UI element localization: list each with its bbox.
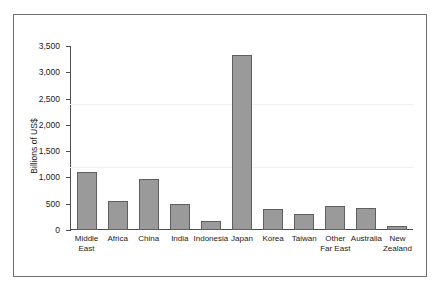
bar[interactable] xyxy=(387,226,407,230)
bar[interactable] xyxy=(294,214,314,230)
bar[interactable] xyxy=(77,172,97,230)
x-axis-category-labels: Middle EastAfricaChinaIndiaIndonesiaJapa… xyxy=(71,234,413,268)
chart-figure-frame: Billions of US$ 05001,0001,5002,0002,500… xyxy=(13,14,427,277)
y-tick-label: 3,500 xyxy=(39,42,60,51)
y-tick: 3,500 xyxy=(66,46,70,47)
bar-series xyxy=(71,46,413,230)
y-tick: 2,000 xyxy=(66,125,70,126)
bar[interactable] xyxy=(139,179,159,230)
bar-slot xyxy=(102,46,133,230)
y-tick: 3,000 xyxy=(66,72,70,73)
y-tick-label: 2,000 xyxy=(39,121,60,130)
y-tick: 0 xyxy=(66,230,70,231)
y-axis-title: Billions of US$ xyxy=(30,118,39,173)
y-tick-label: 1,000 xyxy=(39,173,60,182)
bar[interactable] xyxy=(325,206,345,230)
bar-slot xyxy=(382,46,413,230)
bar-slot xyxy=(226,46,257,230)
y-tick-label: 0 xyxy=(55,226,60,235)
bar[interactable] xyxy=(356,208,376,230)
bar-slot xyxy=(164,46,195,230)
bar[interactable] xyxy=(201,221,221,230)
y-tick: 1,000 xyxy=(66,177,70,178)
y-tick-label: 3,000 xyxy=(39,68,60,77)
y-tick: 2,500 xyxy=(66,99,70,100)
bar-slot xyxy=(351,46,382,230)
y-tick-label: 1,500 xyxy=(39,147,60,156)
x-category-label: New Zealand xyxy=(374,234,420,254)
bar-slot xyxy=(320,46,351,230)
y-tick-label: 500 xyxy=(46,199,60,208)
bar-slot xyxy=(258,46,289,230)
y-tick: 1,500 xyxy=(66,151,70,152)
bar[interactable] xyxy=(108,201,128,230)
bar[interactable] xyxy=(170,204,190,230)
plot-area: 05001,0001,5002,0002,5003,0003,500 xyxy=(70,46,412,230)
bar[interactable] xyxy=(232,55,252,230)
bar-slot xyxy=(71,46,102,230)
y-tick-label: 2,500 xyxy=(39,94,60,103)
y-tick: 500 xyxy=(66,204,70,205)
bar-slot xyxy=(133,46,164,230)
bar-slot xyxy=(195,46,226,230)
bar[interactable] xyxy=(263,209,283,230)
bar-slot xyxy=(289,46,320,230)
